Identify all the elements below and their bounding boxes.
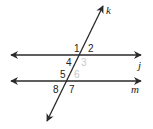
angle-2: 2 bbox=[88, 43, 94, 54]
angle-7: 7 bbox=[69, 84, 75, 95]
label-m: m bbox=[131, 83, 139, 95]
line-k bbox=[47, 6, 103, 121]
diagram: k j m 1 2 3 4 5 6 7 8 bbox=[0, 0, 153, 129]
angle-3: 3 bbox=[81, 57, 87, 68]
label-k: k bbox=[106, 4, 112, 16]
label-j: j bbox=[136, 59, 141, 71]
angle-4: 4 bbox=[66, 57, 72, 68]
angle-5: 5 bbox=[60, 69, 66, 80]
angle-8: 8 bbox=[53, 84, 59, 95]
angle-6: 6 bbox=[74, 69, 80, 80]
angle-1: 1 bbox=[74, 43, 80, 54]
